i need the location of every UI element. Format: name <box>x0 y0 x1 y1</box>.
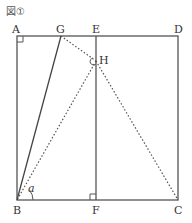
right-angle-mark-f <box>90 194 96 200</box>
segment-hc-dotted <box>96 61 178 200</box>
rectangle-abcd <box>17 36 178 200</box>
geometry-diagram: 図① a A G E D H B F C <box>0 0 192 223</box>
label-b: B <box>13 204 21 217</box>
label-a: A <box>11 23 21 36</box>
right-angle-mark-a <box>17 36 23 42</box>
label-c: C <box>174 204 182 217</box>
label-h: H <box>99 54 109 67</box>
segment-gb <box>17 36 61 200</box>
label-g: G <box>56 23 65 36</box>
label-f: F <box>92 204 100 217</box>
figure-caption: 図① <box>6 6 25 17</box>
segment-gh-dotted <box>61 36 96 61</box>
segment-hb-dotted <box>17 61 96 200</box>
angle-label-a: a <box>28 182 35 195</box>
label-e: E <box>92 23 100 36</box>
label-d: D <box>174 23 183 36</box>
